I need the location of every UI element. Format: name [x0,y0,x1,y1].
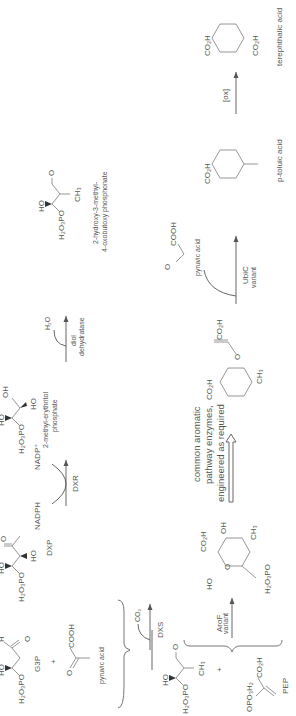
svg-text:H₂O₃PO: H₂O₃PO [17,424,26,454]
svg-text:OH: OH [1,386,10,398]
svg-text:HO: HO [205,578,214,590]
svg-text:CH₃: CH₃ [73,187,82,202]
p-toluic-acid-label: p-toluic acid [275,139,284,182]
nadph-label: NADPH [33,502,42,530]
svg-text:CO₂H: CO₂H [215,319,224,340]
p-toluic-acid-structure: CO₂H p-toluic acid [203,139,284,184]
mep-structure: H₂O₃PO HO HO OH 2-methyl-erythritol phos… [0,386,59,454]
terephthalic-acid-label: terephthalic acid [275,8,284,66]
nadp-label: NADP⁺ [33,444,42,470]
svg-text:COOH: COOH [169,222,178,246]
common-label-1: common aromatic [191,406,202,482]
dxr-label: DXR [71,475,80,492]
svg-text:CO₂H: CO₂H [199,531,208,552]
svg-text:+: + [49,659,58,664]
ox-label: [ox] [221,89,230,102]
diol-dehydratase-step: H₂O diol dehydratase [44,316,86,362]
svg-text:COOH: COOH [67,624,76,648]
pep-label: PEP [281,678,290,694]
chorismate-analog-structure: CO₂H O CO₂H CH₃ [205,319,264,400]
diol-label: diol [70,335,77,346]
ubic-label: UbiC [241,266,250,284]
open-arrow [226,434,236,502]
g3p-label: G3P [33,656,42,672]
svg-text:+: + [215,667,224,672]
common-aromatic-step: common aromatic pathway enzymes, enginee… [191,404,236,502]
svg-text:HO: HO [161,674,170,686]
ubic-step: O COOH pyruvic acid UbiC variant [163,222,257,304]
svg-text:CO₂H: CO₂H [255,657,264,678]
ubic-pyruvic-label: pyruvic acid [194,239,202,276]
svg-text:O: O [47,170,56,176]
dehydratase-label: dehydratase [78,317,86,356]
svg-text:O: O [65,670,74,676]
hmbp-structure-top: H₂O₃PO HO CH₃ O 2-hydroxy-3-methyl- 4-ox… [37,170,109,252]
svg-text:H₂O₃PO: H₂O₃PO [17,572,26,602]
svg-text:HO: HO [37,200,46,212]
reactant-brace-top [118,600,130,708]
svg-text:H₂O₃PO: H₂O₃PO [57,210,66,240]
svg-text:CO₂H: CO₂H [251,35,260,56]
svg-text:CH₃: CH₃ [255,369,264,384]
svg-text:HO: HO [0,414,6,426]
dxp-label: DXP [45,540,54,556]
pathway-diagram: H₂O₃PO HO H O G3P + O COOH pyruvic acid … [0,0,296,716]
aro-brace [184,640,282,652]
common-label-3: engineered as required [215,404,226,502]
svg-text:O: O [0,536,8,542]
terephthalic-acid-structure: CO₂H CO₂H terephthalic acid [203,8,284,66]
hmbp-label-2: 4-oxobutoxy phosphonate [101,171,109,252]
svg-text:HO: HO [0,664,6,676]
svg-text:OPO₃H₂: OPO₃H₂ [245,682,254,712]
svg-text:CO₂H: CO₂H [205,379,214,400]
sugar-intermediate-structure: O HO CO₂H OH CH₃ H₂O₃PO [199,522,272,594]
svg-text:O: O [23,636,32,642]
svg-text:CO₂H: CO₂H [203,163,212,184]
svg-text:H₂O₃PO: H₂O₃PO [181,684,190,714]
ox-step: [ox] [221,72,239,114]
diagram-stage: H₂O₃PO HO H O G3P + O COOH pyruvic acid … [0,0,296,716]
pyruvic-acid-label: pyruvic acid [98,647,106,684]
svg-text:O: O [223,564,232,570]
svg-text:CH₃: CH₃ [197,661,206,676]
hmbp-structure-bottom: H₂O₃PO HO CH₃ O + [161,644,224,714]
pyruvic-acid-structure: O COOH pyruvic acid [65,624,106,684]
svg-text:OH: OH [219,522,228,534]
svg-text:O: O [233,354,242,360]
pep-structure: OPO₃H₂ CO₂H PEP [245,657,290,712]
arof-step: AroF variant [215,598,235,638]
dxs-label: DXS [156,622,165,638]
svg-text:HO: HO [29,550,38,562]
svg-text:O: O [163,264,172,270]
common-label-2: pathway enzymes, [203,405,214,484]
svg-text:O: O [171,644,180,650]
hmbp-label-1: 2-hydroxy-3-methyl- [92,181,100,244]
dxs-step: CO₂ DXS [134,604,165,670]
svg-text:HO: HO [29,398,38,410]
svg-text:HO: HO [0,562,6,574]
dxr-step: NADPH NADP⁺ DXR [33,444,80,530]
svg-text:CO₂: CO₂ [134,609,141,623]
arof-variant-label: variant [222,613,229,634]
dxp-structure: H₂O₃PO HO HO O DXP [0,536,54,602]
svg-text:CH₃: CH₃ [249,525,258,540]
ubic-variant-label: variant [250,267,257,288]
svg-text:H: H [0,636,6,642]
svg-text:H₂O₃PO: H₂O₃PO [17,674,26,704]
svg-text:H₂O₃PO: H₂O₃PO [263,564,272,594]
svg-text:CO₂H: CO₂H [203,35,212,56]
g3p-structure: H₂O₃PO HO H O G3P + [0,636,58,704]
mep-label-2: phosphate [51,399,59,432]
mep-label-1: 2-methyl-erythritol [42,392,50,448]
svg-text:H₂O: H₂O [44,316,51,330]
